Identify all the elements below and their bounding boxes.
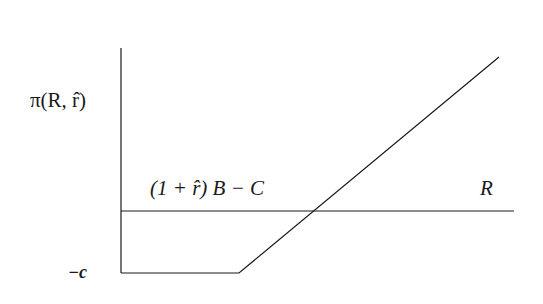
y-axis-label-text: π(R, r̂) — [30, 88, 86, 112]
reference-line-label: (1 + r̂) B − C — [150, 178, 264, 199]
floor-label-text: −c — [68, 262, 87, 282]
x-axis-end-label: R — [480, 178, 493, 199]
payoff-curve — [121, 57, 499, 273]
y-axis-label: π(R, r̂) — [30, 90, 86, 111]
floor-label: −c — [68, 263, 87, 281]
diagram-canvas — [0, 0, 543, 304]
reference-line-label-text: (1 + r̂) B − C — [150, 176, 264, 200]
x-axis-end-label-text: R — [480, 176, 493, 200]
payoff-diagram: π(R, r̂) (1 + r̂) B − C −c R — [0, 0, 543, 304]
